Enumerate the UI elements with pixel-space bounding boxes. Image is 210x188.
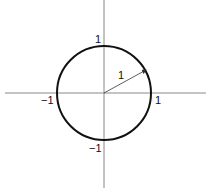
- label-radius: 1: [118, 69, 124, 81]
- radius-arrow: [104, 70, 146, 93]
- unit-circle-diagram: 1 −1 −1 1 1: [0, 0, 210, 188]
- label-x-right: 1: [155, 94, 161, 106]
- label-x-left: −1: [41, 94, 54, 106]
- label-y-top: 1: [95, 33, 101, 45]
- label-y-bottom: −1: [89, 142, 102, 154]
